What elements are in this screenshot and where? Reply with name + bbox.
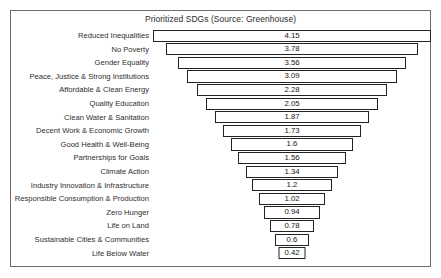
funnel-row: Climate Action1.34 [11, 165, 430, 179]
funnel-row: Reduced Inequalities4.15 [11, 29, 430, 43]
funnel-bar: 1.2 [252, 179, 332, 191]
funnel-bar: 1.87 [215, 111, 369, 123]
funnel-bar: 3.56 [178, 57, 406, 69]
funnel-bar-value: 2.28 [198, 85, 386, 95]
funnel-bar-value: 1.6 [232, 139, 352, 149]
funnel-row-label: Sustainable Cities & Communities [35, 233, 149, 247]
funnel-row-label: Partnerships for Goals [73, 151, 149, 165]
funnel-row-label: Life Below Water [92, 247, 149, 261]
funnel-bar-value: 0.42 [280, 248, 305, 258]
funnel-row-label: No Poverty [111, 43, 149, 57]
funnel-row: Zero Hunger0.94 [11, 206, 430, 220]
funnel-row: Responsible Consumption & Production1.02 [11, 192, 430, 206]
funnel-bar-value: 1.34 [247, 167, 337, 177]
funnel-bar: 1.73 [223, 125, 361, 137]
funnel-row: Peace, Justice & Strong Institutions3.09 [11, 70, 430, 84]
funnel-row-label: Reduced Inequalities [78, 29, 149, 43]
funnel-row: Life on Land0.78 [11, 219, 430, 233]
funnel-row-label: Decent Work & Economic Growth [36, 124, 149, 138]
funnel-row: Industry Innovation & Infrastructure1.2 [11, 179, 430, 193]
funnel-bar: 0.78 [270, 220, 314, 232]
funnel-row: Clean Water & Sanitation1.87 [11, 111, 430, 125]
funnel-bar: 1.6 [231, 138, 353, 150]
funnel-row-label: Clean Water & Sanitation [64, 111, 149, 125]
funnel-chart: Reduced Inequalities4.15No Poverty3.78Ge… [11, 29, 430, 260]
funnel-row-label: Good Health & Well-Being [61, 138, 150, 152]
funnel-row-label: Responsible Consumption & Production [15, 192, 149, 206]
funnel-bar: 4.15 [153, 30, 431, 42]
funnel-bar-value: 1.56 [239, 153, 345, 163]
funnel-bar: 0.6 [275, 234, 309, 246]
funnel-bar-value: 3.09 [188, 71, 396, 81]
funnel-bar-value: 4.15 [154, 31, 430, 41]
funnel-row-label: Quality Education [89, 97, 149, 111]
funnel-bar-value: 0.78 [271, 221, 313, 231]
funnel-row-label: Zero Hunger [106, 206, 149, 220]
funnel-row: Partnerships for Goals1.56 [11, 151, 430, 165]
funnel-bar: 0.94 [264, 206, 320, 218]
funnel-bar-value: 3.56 [179, 58, 405, 68]
funnel-row: Life Below Water0.42 [11, 247, 430, 261]
funnel-bar-value: 0.94 [265, 207, 319, 217]
funnel-row: No Poverty3.78 [11, 43, 430, 57]
funnel-bar: 3.09 [187, 70, 397, 82]
funnel-bar-value: 1.87 [216, 112, 368, 122]
funnel-row-label: Industry Innovation & Infrastructure [31, 179, 149, 193]
funnel-bar-value: 2.05 [207, 99, 377, 109]
funnel-bar-value: 1.02 [260, 194, 324, 204]
funnel-row: Quality Education2.05 [11, 97, 430, 111]
funnel-row: Gender Equality3.56 [11, 56, 430, 70]
funnel-row: Affordable & Clean Energy2.28 [11, 83, 430, 97]
funnel-bar-value: 0.6 [276, 235, 308, 245]
funnel-row-label: Peace, Justice & Strong Institutions [30, 70, 149, 84]
funnel-bar: 0.42 [279, 247, 306, 259]
funnel-row: Decent Work & Economic Growth1.73 [11, 124, 430, 138]
chart-frame: Prioritized SDGs (Source: Greenhouse) Re… [10, 10, 431, 267]
funnel-bar: 3.78 [166, 43, 418, 55]
funnel-row-label: Gender Equality [95, 56, 149, 70]
funnel-row: Sustainable Cities & Communities0.6 [11, 233, 430, 247]
funnel-bar: 2.28 [197, 84, 387, 96]
funnel-row-label: Climate Action [100, 165, 149, 179]
funnel-row-label: Life on Land [107, 219, 149, 233]
funnel-bar: 2.05 [206, 98, 378, 110]
chart-title: Prioritized SDGs (Source: Greenhouse) [11, 14, 430, 24]
funnel-bar: 1.02 [259, 193, 325, 205]
funnel-row: Good Health & Well-Being1.6 [11, 138, 430, 152]
funnel-bar: 1.56 [238, 152, 346, 164]
funnel-row-label: Affordable & Clean Energy [59, 83, 149, 97]
funnel-bar-value: 1.2 [253, 180, 331, 190]
funnel-bar: 1.34 [246, 166, 338, 178]
funnel-bar-value: 1.73 [224, 126, 360, 136]
funnel-bar-value: 3.78 [167, 44, 417, 54]
